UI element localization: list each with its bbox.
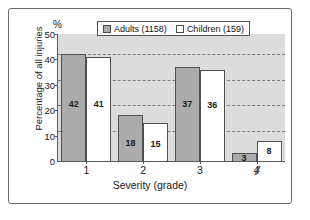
bar-value-children-grade-3: 36 xyxy=(201,100,224,110)
bar-adults-grade-1[interactable]: 42 xyxy=(61,54,86,161)
bar-value-children-grade-2: 15 xyxy=(144,139,167,149)
bar-value-children-grade-4: 8 xyxy=(258,146,281,156)
x-tick-label-3: 3 xyxy=(197,164,203,176)
bar-value-adults-grade-3: 37 xyxy=(176,99,199,109)
x-tick-label-1: 1 xyxy=(83,164,89,176)
legend-swatch-adults xyxy=(103,25,111,33)
y-tick-label-40: 40 xyxy=(44,54,55,65)
legend-swatch-children xyxy=(176,25,184,33)
x-axis-title: Severity (grade) xyxy=(9,179,291,191)
y-tick-label-30: 30 xyxy=(44,79,55,90)
y-tick-label-0: 0 xyxy=(50,156,55,167)
bar-group-4: 3 8 xyxy=(232,34,282,161)
y-tick-label-10: 10 xyxy=(44,130,55,141)
bar-value-children-grade-1: 41 xyxy=(87,99,110,109)
y-axis-title: Percentage of all injuries xyxy=(33,19,44,139)
bar-children-grade-2[interactable]: 15 xyxy=(143,123,168,161)
axis-break-icon: // xyxy=(255,164,258,178)
bar-adults-grade-2[interactable]: 18 xyxy=(118,115,143,161)
bar-adults-grade-3[interactable]: 37 xyxy=(175,67,200,161)
legend-item-adults: Adults (1158) xyxy=(103,24,167,34)
bar-value-adults-grade-4: 3 xyxy=(233,153,256,163)
chart-legend: Adults (1158) Children (159) xyxy=(97,21,250,36)
y-tick-label-50: 50 xyxy=(44,29,55,40)
bar-adults-grade-4[interactable]: 3 xyxy=(232,153,257,161)
bar-value-adults-grade-1: 42 xyxy=(62,99,85,109)
bar-group-3: 37 36 xyxy=(175,34,225,161)
figure-frame: % Percentage of all injuries Adults (115… xyxy=(8,8,292,204)
x-tick-label-2: 2 xyxy=(140,164,146,176)
plot-area: 50 40 30 20 10 0 42 41 18 xyxy=(57,34,285,162)
bar-value-adults-grade-2: 18 xyxy=(119,138,142,148)
legend-label-adults: Adults (1158) xyxy=(114,24,167,34)
legend-item-children: Children (159) xyxy=(176,24,244,34)
bar-children-grade-3[interactable]: 36 xyxy=(200,70,225,161)
bars-layer: 42 41 18 15 37 36 xyxy=(58,34,285,161)
y-tick-label-20: 20 xyxy=(44,105,55,116)
bar-children-grade-1[interactable]: 41 xyxy=(86,57,111,161)
bar-group-2: 18 15 xyxy=(118,34,168,161)
bar-children-grade-4[interactable]: 8 xyxy=(257,141,282,161)
bar-group-1: 42 41 xyxy=(61,34,111,161)
legend-label-children: Children (159) xyxy=(187,24,244,34)
